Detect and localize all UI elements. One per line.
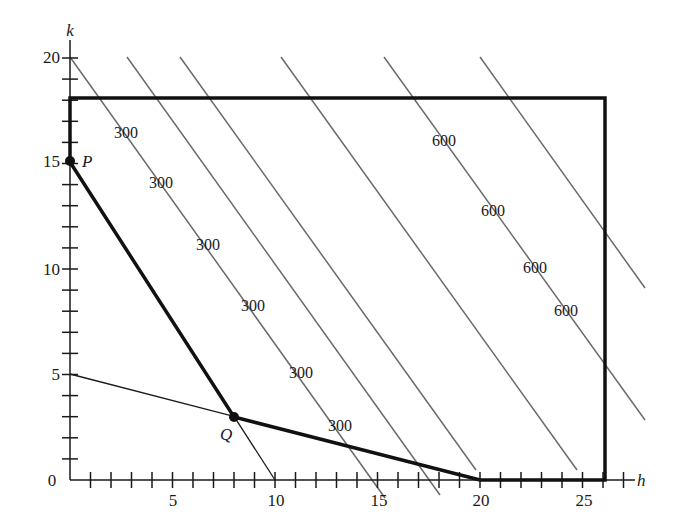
x-axis-label: h (637, 471, 646, 490)
y-tick-label-10: 10 (43, 260, 60, 279)
x-tick-label-10: 10 (268, 491, 285, 510)
linear-programming-chart: 0 5 10 15 20 25 5 10 15 20 k h P Q 300 3… (0, 0, 681, 531)
x-tick-label-20: 20 (473, 491, 490, 510)
x-tick-label-0: 0 (48, 471, 57, 490)
annotation-600: 600 (554, 302, 578, 319)
y-axis-label: k (66, 21, 74, 40)
annotation-300: 300 (289, 364, 313, 381)
axes (70, 40, 635, 480)
y-tick-label-20: 20 (43, 48, 60, 67)
objective-line-6 (480, 57, 645, 288)
objective-line-3 (180, 57, 476, 470)
y-tick-label-15: 15 (43, 152, 60, 171)
x-tick-label-25: 25 (576, 491, 593, 510)
annotation-300: 300 (328, 417, 352, 434)
objective-lines (70, 57, 645, 498)
point-p-marker (65, 156, 75, 166)
point-q-marker (229, 412, 239, 422)
annotation-300: 300 (196, 236, 220, 253)
annotation-600: 600 (432, 132, 456, 149)
constraint-lines (70, 162, 480, 480)
y-tick-label-5: 5 (52, 365, 61, 384)
annotation-300: 300 (241, 297, 265, 314)
annotation-600: 600 (523, 259, 547, 276)
point-p-label: P (81, 152, 92, 171)
annotation-600: 600 (481, 202, 505, 219)
annotation-300: 300 (114, 124, 138, 141)
x-tick-label-15: 15 (371, 491, 388, 510)
x-tick-label-5: 5 (169, 491, 178, 510)
point-q-label: Q (220, 425, 232, 444)
annotation-300: 300 (149, 174, 173, 191)
